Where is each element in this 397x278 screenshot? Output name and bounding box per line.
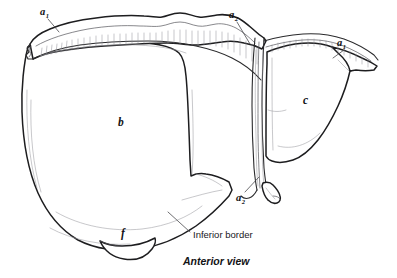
label-inferior-border: Inferior border [193, 230, 253, 240]
round-ligament-tube [262, 182, 280, 203]
label-b-right-lobe: b [118, 117, 124, 129]
label-a2-bottom-sub: 2 [241, 198, 245, 205]
label-a1-right: a1 [337, 38, 346, 51]
label-a2-top: a2 [229, 10, 238, 23]
right-lobe-group [22, 41, 232, 250]
falciform-ligament-fold-a [255, 50, 258, 186]
round-ligament-group [262, 182, 280, 203]
label-a2-bottom: a2 [236, 193, 245, 206]
label-a1-left: a1 [40, 7, 49, 20]
label-a2-top-sub: 2 [234, 15, 238, 22]
label-a1-right-sub: 1 [342, 43, 346, 50]
figure-caption: Anterior view [183, 256, 250, 267]
label-c-left-lobe: c [303, 95, 308, 107]
label-f-gallbladder: f [121, 228, 125, 240]
falciform-ligament-left-edge [252, 38, 257, 190]
right-lobe-outline [22, 41, 232, 250]
falciform-ligament-mid-fold [258, 42, 260, 188]
left-lobe-outline [266, 43, 356, 162]
left-lobe-group [264, 34, 378, 163]
label-a1-left-sub: 1 [45, 12, 49, 19]
liver-anterior-view-figure: a1 a2 a1 a2 b c f Inferior border Anteri… [0, 0, 397, 278]
right-lobe-shade-right [192, 90, 193, 174]
falciform-ligament-group [241, 38, 268, 200]
